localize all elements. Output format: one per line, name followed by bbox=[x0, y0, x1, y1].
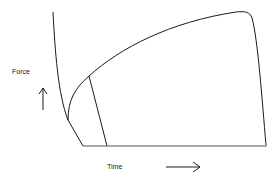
y-axis-label: Force bbox=[12, 68, 30, 75]
up-arrow-icon bbox=[39, 88, 47, 110]
steep-decay-curve bbox=[53, 12, 83, 146]
x-axis-label: Time bbox=[107, 163, 122, 170]
right-arrow-icon bbox=[166, 162, 200, 172]
secondary-line bbox=[89, 76, 107, 146]
force-time-diagram bbox=[0, 0, 279, 179]
main-force-curve bbox=[68, 12, 266, 145]
